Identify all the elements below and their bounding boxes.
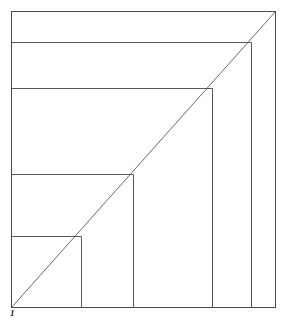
staircase-diagram (0, 0, 284, 321)
origin-label: 1 (10, 309, 15, 318)
figure-container: 1 (0, 0, 284, 321)
diagonal-line (12, 12, 276, 308)
